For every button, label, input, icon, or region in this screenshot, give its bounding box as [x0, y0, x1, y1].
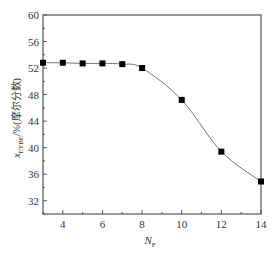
x-tick-label: 8 — [139, 218, 145, 230]
line-chart: 3236404448525660468101214 NF xETBE/%(摩尔分… — [0, 0, 276, 257]
y-tick-label: 60 — [28, 9, 40, 21]
square-marker — [119, 61, 125, 67]
chart: 3236404448525660468101214 NF xETBE/%(摩尔分… — [0, 0, 276, 257]
y-tick-label: 56 — [28, 36, 40, 48]
y-axis-title: xETBE/%(摩尔分数) — [10, 78, 25, 159]
y-tick-label: 44 — [28, 115, 40, 127]
x-tick-label: 4 — [60, 218, 66, 230]
square-marker — [139, 65, 145, 71]
axis-ticks: 3236404448525660468101214 — [28, 9, 267, 230]
square-marker — [80, 60, 86, 66]
square-marker — [218, 149, 224, 155]
plot-frame — [43, 15, 261, 214]
y-tick-label: 36 — [28, 168, 40, 180]
data-markers — [40, 60, 264, 185]
x-tick-label: 6 — [100, 218, 106, 230]
y-tick-label: 52 — [28, 62, 39, 74]
square-marker — [99, 60, 105, 66]
x-tick-label: 12 — [216, 218, 227, 230]
square-marker — [40, 60, 46, 66]
square-marker — [258, 178, 264, 184]
series-line — [43, 63, 261, 182]
y-tick-label: 32 — [28, 195, 39, 207]
data-curve — [43, 63, 261, 182]
y-tick-label: 48 — [28, 89, 40, 101]
x-axis-title: NF — [143, 234, 155, 249]
plot-border — [43, 15, 261, 214]
x-tick-label: 14 — [256, 218, 268, 230]
square-marker — [179, 97, 185, 103]
square-marker — [60, 60, 66, 66]
x-tick-label: 10 — [176, 218, 188, 230]
y-tick-label: 40 — [28, 142, 40, 154]
